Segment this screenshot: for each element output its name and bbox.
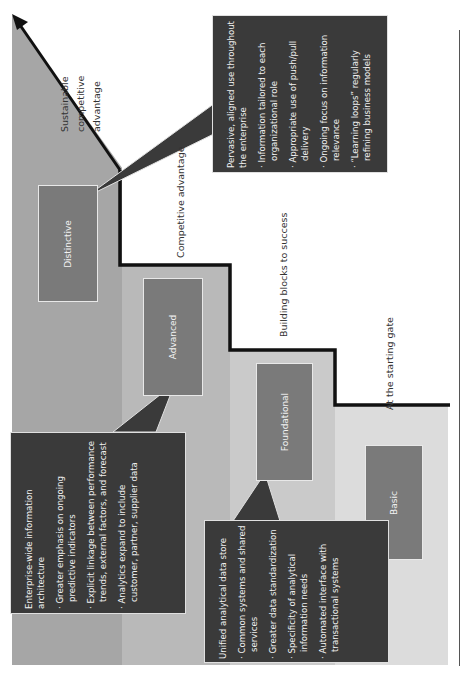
callout-distinctive-bullet: · “Learning loops” regularly refining bu… xyxy=(349,20,373,168)
level-box-advanced: Advanced xyxy=(143,278,203,396)
callout-foundational-bullet: · Specificity of analytical information … xyxy=(286,524,310,659)
callout-foundational-bullet: · Common systems and shared services xyxy=(236,524,260,659)
level-box-foundational: Foundational xyxy=(256,363,313,481)
level-box-distinctive: Distinctive xyxy=(38,185,98,302)
level-label-advanced: Advanced xyxy=(168,315,178,359)
callout-distinctive-bullet: · Appropriate use of push/pull delivery xyxy=(287,20,311,168)
callout-advanced-bullet: · Analytics expand to include customer, … xyxy=(116,439,140,609)
callout-advanced-bullet: · Greater emphasis on ongoing predictive… xyxy=(54,439,78,609)
level-label-foundational: Foundational xyxy=(280,393,290,451)
callout-advanced-text: Enterprise-wide information architecture… xyxy=(23,439,147,609)
callout-distinctive-bullet: · Information tailored to each organizat… xyxy=(256,20,280,168)
stage-label-starting-gate: At the starting gate xyxy=(384,317,395,410)
callout-distinctive-heading: Pervasive, aligned use throughout the en… xyxy=(225,20,249,168)
callout-foundational-bullet: · Greater data standardization xyxy=(267,524,279,659)
callout-advanced: Enterprise-wide information architecture… xyxy=(10,432,186,614)
callout-distinctive-bullet: · Ongoing focus on information relevance xyxy=(318,20,342,168)
callout-distinctive-text: Pervasive, aligned use throughout the en… xyxy=(225,20,380,168)
callout-advanced-bullet: · Explicit linkage between performance t… xyxy=(85,439,109,609)
stage-label-sustainable: Sustainable competitive advantage xyxy=(57,76,105,132)
callout-foundational: Unified analytical data store · Common s… xyxy=(204,520,389,663)
level-label-basic: Basic xyxy=(389,491,399,515)
page-edge-line xyxy=(459,30,460,666)
callout-foundational-text: Unified analytical data store · Common s… xyxy=(217,524,348,659)
level-label-distinctive: Distinctive xyxy=(63,220,73,268)
callout-advanced-heading: Enterprise-wide information architecture xyxy=(23,439,47,609)
callout-foundational-bullet: · Automated interface with transactional… xyxy=(317,524,341,659)
stage-label-competitive: Competitive advantage xyxy=(175,146,186,258)
callout-distinctive: Pervasive, aligned use throughout the en… xyxy=(212,15,388,173)
stage-label-building-blocks: Building blocks to success xyxy=(278,213,289,337)
callout-foundational-heading: Unified analytical data store xyxy=(217,524,229,659)
